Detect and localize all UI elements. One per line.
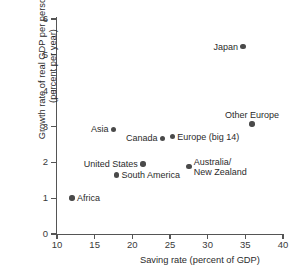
- data-point-label: Africa: [77, 193, 100, 204]
- x-axis-title: Saving rate (percent of GDP): [140, 255, 260, 265]
- y-axis-title-line1: Growth rate of real GDP per person: [37, 0, 48, 161]
- data-point-label: Other Europe: [225, 109, 279, 120]
- x-tick-label: 20: [122, 240, 142, 250]
- x-tick-label: 10: [47, 240, 67, 250]
- data-point-label: Australia/New Zealand: [194, 156, 247, 177]
- data-point: [186, 164, 191, 169]
- y-axis-title: Growth rate of real GDP per person (perc…: [37, 0, 59, 161]
- y-tick-label: 0: [34, 229, 48, 239]
- data-point-label: Europe (big 14): [177, 131, 239, 142]
- data-point-label: Japan: [214, 41, 239, 52]
- scatter-chart: 0123456 10152025303540 Growth rate of re…: [0, 0, 306, 279]
- data-point-label: Canada: [126, 133, 158, 144]
- x-tick-label: 40: [273, 240, 293, 250]
- data-point: [140, 161, 145, 166]
- y-tick-label: 1: [34, 193, 48, 203]
- y-tick: [51, 198, 56, 199]
- x-tick-label: 30: [198, 240, 218, 250]
- data-point: [240, 44, 245, 49]
- data-point-label: United States: [84, 159, 138, 170]
- data-point: [249, 121, 254, 126]
- data-point-label: Asia: [91, 124, 109, 135]
- y-tick: [51, 233, 56, 234]
- y-tick: [51, 162, 56, 163]
- data-point-label: South America: [122, 170, 181, 181]
- x-tick-label: 25: [160, 240, 180, 250]
- data-point: [114, 172, 119, 177]
- data-point: [69, 195, 74, 200]
- x-tick-label: 35: [235, 240, 255, 250]
- x-tick-label: 15: [85, 240, 105, 250]
